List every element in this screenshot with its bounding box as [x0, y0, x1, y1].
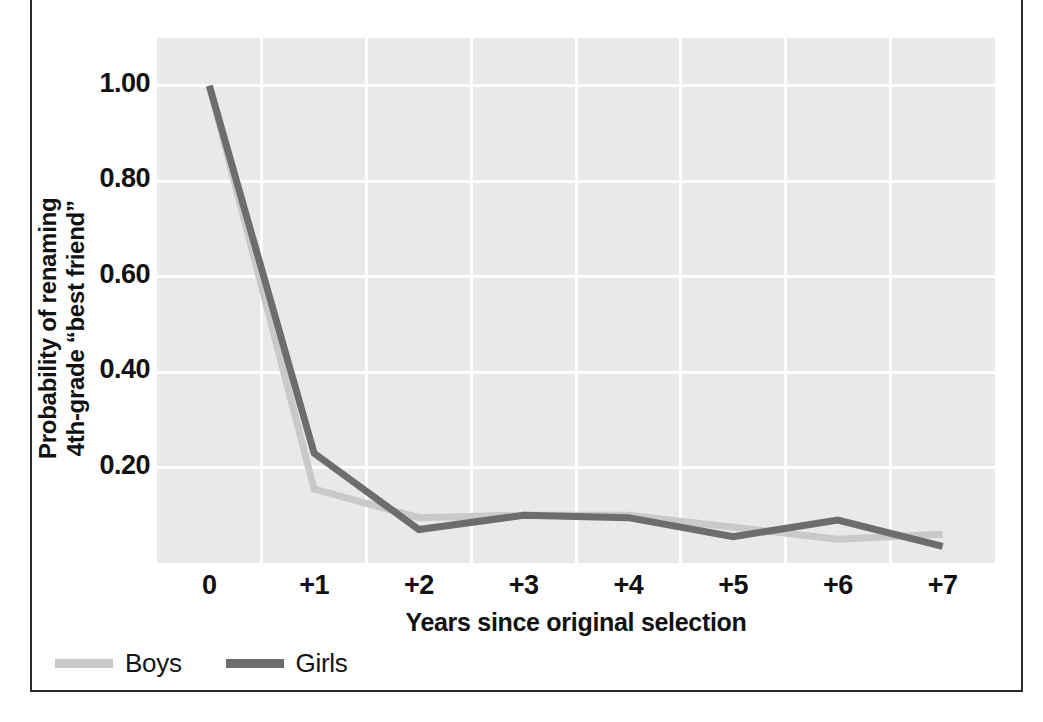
y-axis-title: Probability of renaming 4th-grade “best … — [34, 98, 91, 558]
legend: Boys Girls — [55, 648, 348, 679]
x-axis-tick-label: +3 — [484, 570, 564, 601]
series-line-boys — [209, 86, 942, 539]
x-axis-title: Years since original selection — [157, 608, 995, 637]
y-axis-title-line-2: 4th-grade “best friend” — [62, 98, 90, 558]
x-axis-tick-label: 0 — [169, 570, 249, 601]
legend-label-girls: Girls — [296, 648, 348, 679]
plot-area — [157, 38, 995, 563]
x-axis-tick-label: +6 — [798, 570, 878, 601]
x-axis-tick-label: +5 — [693, 570, 773, 601]
y-axis-title-line-1: Probability of renaming — [34, 98, 62, 558]
x-axis-tick-label: +1 — [274, 570, 354, 601]
series-line-girls — [209, 86, 942, 547]
series-lines — [157, 38, 995, 563]
y-axis-tick-label: 1.00 — [55, 68, 150, 99]
x-axis-ticks: 0+1+2+3+4+5+6+7 — [157, 570, 995, 610]
x-axis-tick-label: +4 — [588, 570, 668, 601]
legend-swatch-boys — [55, 659, 113, 668]
legend-item-boys: Boys — [55, 648, 182, 679]
legend-label-boys: Boys — [125, 648, 182, 679]
legend-item-girls: Girls — [226, 648, 348, 679]
legend-swatch-girls — [226, 659, 284, 668]
line-chart: 1.000.800.600.400.20 0+1+2+3+4+5+6+7 Yea… — [0, 0, 1043, 722]
x-axis-tick-label: +2 — [379, 570, 459, 601]
x-axis-tick-label: +7 — [903, 570, 983, 601]
